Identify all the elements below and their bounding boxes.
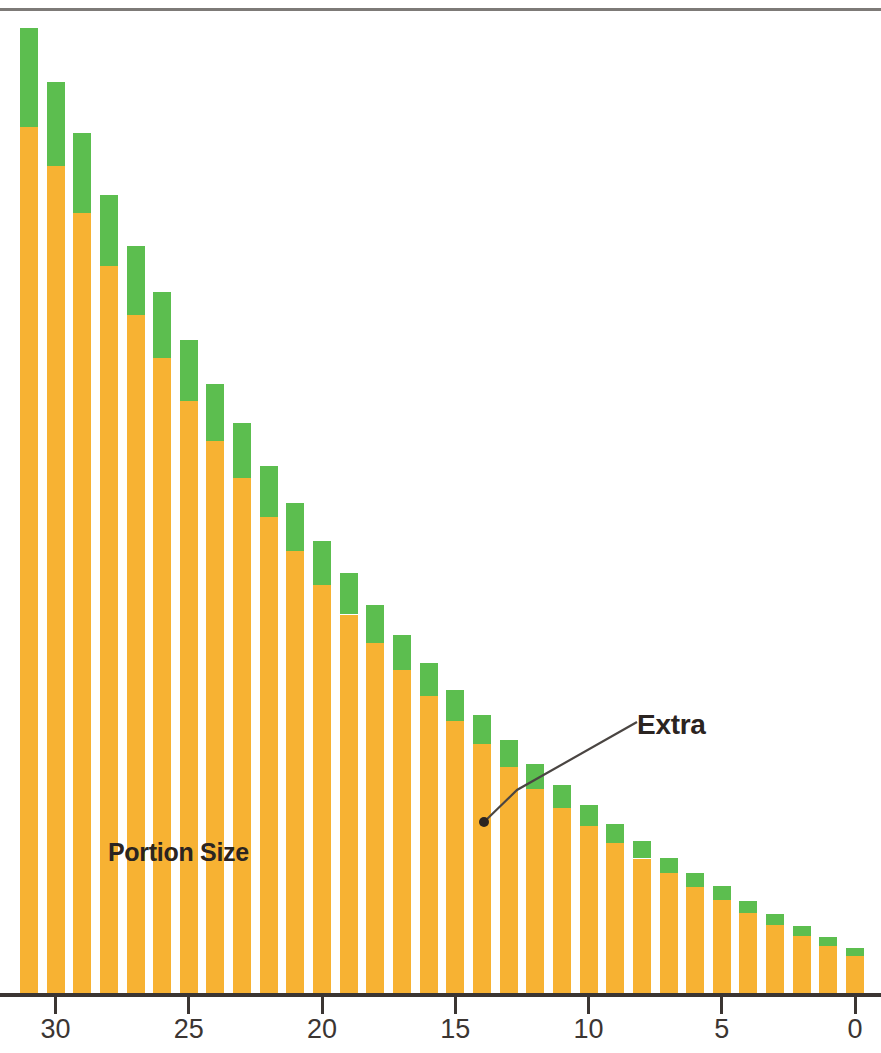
bar-segment-extra — [20, 28, 38, 127]
x-axis-tick-label: 0 — [847, 1014, 862, 1045]
bar-column — [606, 824, 624, 995]
bar-segment-portion-size — [446, 721, 464, 995]
bar-column — [819, 937, 837, 995]
bar-segment-portion-size — [153, 358, 171, 995]
bar-segment-portion-size — [286, 551, 304, 995]
bar-segment-extra — [819, 937, 837, 946]
bar-segment-portion-size — [420, 696, 438, 995]
x-axis-tick-label: 10 — [573, 1014, 603, 1045]
bar-segment-extra — [180, 340, 198, 402]
bar-column — [739, 901, 757, 995]
bar-segment-extra — [393, 635, 411, 671]
bar-segment-extra — [713, 886, 731, 900]
chart-figure: 302520151050 Portion Size Extra — [0, 0, 881, 1053]
x-axis-tick — [187, 997, 190, 1014]
bar-column — [153, 292, 171, 995]
bar-segment-portion-size — [180, 401, 198, 995]
bar-segment-portion-size — [127, 315, 145, 995]
bar-column — [366, 605, 384, 995]
bar-segment-extra — [606, 824, 624, 843]
bar-segment-extra — [100, 195, 118, 266]
bar-segment-extra — [286, 503, 304, 551]
bar-segment-extra — [793, 926, 811, 936]
bar-column — [473, 715, 491, 995]
bar-segment-extra — [260, 466, 278, 517]
bar-segment-portion-size — [73, 213, 91, 995]
x-axis-tick — [54, 997, 57, 1014]
bar-column — [660, 858, 678, 995]
bar-column — [260, 466, 278, 995]
bar-segment-portion-size — [846, 956, 864, 995]
bar-column — [420, 663, 438, 995]
bar-segment-extra — [580, 805, 598, 826]
bar-column — [313, 541, 331, 995]
bar-segment-portion-size — [606, 843, 624, 995]
bar-column — [686, 873, 704, 996]
bar-segment-extra — [633, 841, 651, 859]
bar-segment-portion-size — [100, 266, 118, 995]
bar-segment-portion-size — [686, 887, 704, 995]
bar-column — [393, 635, 411, 996]
bar-segment-extra — [127, 246, 145, 315]
bar-segment-portion-size — [366, 643, 384, 995]
x-axis-line — [0, 993, 881, 997]
bar-segment-portion-size — [526, 789, 544, 995]
bar-segment-portion-size — [393, 670, 411, 995]
bar-column — [580, 805, 598, 995]
bar-segment-portion-size — [313, 585, 331, 995]
x-axis-tick — [854, 997, 857, 1014]
x-axis-tick-label: 25 — [174, 1014, 204, 1045]
bar-segment-portion-size — [340, 615, 358, 995]
x-axis-tick — [720, 997, 723, 1014]
bar-column — [127, 246, 145, 995]
bar-segment-extra — [313, 541, 331, 585]
bar-segment-extra — [153, 292, 171, 358]
bar-column — [100, 195, 118, 995]
bar-segment-portion-size — [553, 808, 571, 995]
x-axis-tick — [454, 997, 457, 1014]
bar-segment-portion-size — [660, 873, 678, 995]
bar-segment-portion-size — [819, 946, 837, 995]
bar-segment-portion-size — [206, 441, 224, 995]
bar-segment-extra — [366, 605, 384, 644]
bar-segment-portion-size — [739, 913, 757, 995]
bar-column — [20, 28, 38, 995]
bar-column — [766, 914, 784, 995]
bar-segment-extra — [846, 948, 864, 956]
bar-segment-extra — [553, 785, 571, 808]
bar-segment-extra — [739, 901, 757, 913]
x-axis-tick — [587, 997, 590, 1014]
bar-column — [526, 764, 544, 995]
bar-segment-portion-size — [473, 744, 491, 995]
bar-segment-portion-size — [260, 517, 278, 995]
bar-column — [233, 423, 251, 995]
bar-segment-extra — [766, 914, 784, 925]
bar-column — [47, 82, 65, 995]
bar-segment-extra — [500, 740, 518, 767]
bar-column — [846, 948, 864, 995]
bar-segment-extra — [47, 82, 65, 167]
bar-column — [553, 785, 571, 995]
bar-segment-extra — [446, 690, 464, 721]
bar-segment-portion-size — [20, 127, 38, 995]
series-label-extra: Extra — [637, 709, 706, 741]
x-axis-tick-label: 20 — [307, 1014, 337, 1045]
bar-column — [500, 740, 518, 995]
bar-column — [446, 690, 464, 995]
x-axis-tick-label: 5 — [714, 1014, 729, 1045]
bar-segment-extra — [233, 423, 251, 478]
bar-segment-extra — [473, 715, 491, 744]
bar-segment-extra — [340, 573, 358, 615]
x-axis-tick — [321, 997, 324, 1014]
bar-column — [340, 573, 358, 995]
bar-segment-extra — [660, 858, 678, 874]
bar-column — [713, 886, 731, 995]
bar-segment-portion-size — [233, 478, 251, 995]
bar-segment-portion-size — [633, 859, 651, 995]
bar-segment-extra — [206, 384, 224, 442]
bar-column — [180, 340, 198, 995]
bar-segment-portion-size — [500, 767, 518, 995]
bar-column — [633, 841, 651, 995]
bar-segment-extra — [686, 873, 704, 888]
bar-column — [73, 133, 91, 995]
